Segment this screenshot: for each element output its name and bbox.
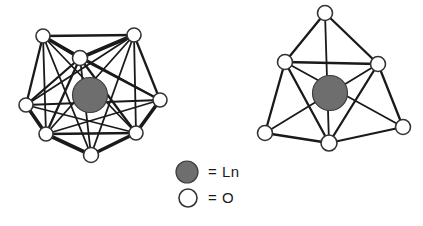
- o-circle-marker: [179, 189, 197, 207]
- bond-edge: [329, 127, 403, 143]
- bond-edge: [43, 35, 134, 36]
- o-vertex-circle: [84, 148, 99, 163]
- bond-edge: [265, 133, 329, 143]
- legend-label-text: = Ln: [208, 163, 240, 180]
- legend-label-text: = O: [208, 189, 234, 206]
- o-vertex-circle: [127, 28, 141, 42]
- o-vertex-circle: [153, 93, 167, 107]
- ln-sphere-marker: [176, 161, 198, 183]
- o-vertex-circle: [19, 98, 33, 112]
- bond-edge: [43, 36, 46, 134]
- o-vertex-circle: [396, 120, 411, 135]
- bond-edge: [80, 35, 134, 58]
- diagram-figure: = Ln= O: [0, 0, 423, 226]
- left-polyhedron-group: [19, 28, 167, 163]
- right-polyhedron-group: [258, 6, 411, 152]
- o-vertex-circle: [36, 29, 50, 43]
- bond-edge: [378, 64, 403, 127]
- bond-edge: [134, 35, 160, 100]
- o-vertex-circle: [318, 6, 333, 21]
- bond-edge: [46, 133, 136, 134]
- bond-edge: [325, 13, 378, 64]
- bond-edge: [26, 58, 80, 105]
- coordination-polyhedra-svg: = Ln= O: [0, 0, 423, 226]
- o-vertex-circle: [371, 57, 386, 72]
- legend-group: = Ln= O: [176, 161, 240, 207]
- o-vertex-circle: [39, 127, 53, 141]
- o-vertex-circle: [129, 126, 143, 140]
- bond-edge: [285, 62, 378, 64]
- o-vertex-circle: [278, 55, 293, 70]
- o-vertex-circle: [321, 135, 337, 151]
- o-vertex-circle: [73, 51, 88, 66]
- bond-edge: [285, 13, 325, 62]
- ln-center-sphere: [313, 76, 348, 111]
- bond-edge: [134, 35, 136, 133]
- o-vertex-circle: [258, 126, 273, 141]
- ln-center-sphere: [73, 78, 108, 113]
